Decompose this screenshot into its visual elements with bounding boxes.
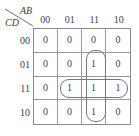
cell-r2-c0: 0 [34,77,58,101]
row-header-3: 10 [8,101,32,125]
axis-corner-header: AB CD [4,4,34,30]
cell-r1-c2: 1 [82,53,106,77]
column-header-0: 00 [33,12,58,27]
row-header-0: 00 [8,28,32,52]
cell-r3-c0: 0 [34,100,58,124]
cell-r1-c1: 0 [58,53,82,77]
cell-r3-c1: 0 [58,100,82,124]
column-header-1: 01 [58,12,83,27]
cell-r0-c3: 0 [106,29,130,53]
cell-r2-c1: 1 [58,77,82,101]
cell-r2-c3: 1 [106,77,130,101]
row-header-1: 01 [8,52,32,76]
cell-r0-c1: 0 [58,29,82,53]
row-axis-label: CD [5,17,19,28]
row-header-2: 11 [8,77,32,101]
column-header-3: 10 [107,12,132,27]
column-axis-label: AB [20,5,32,16]
cell-r3-c2: 1 [82,100,106,124]
cell-r0-c2: 0 [82,29,106,53]
column-headers: 00 01 11 10 [33,12,131,27]
cell-r3-c3: 0 [106,100,130,124]
column-header-2: 11 [82,12,107,27]
cell-r2-c2: 1 [82,77,106,101]
cell-r1-c0: 0 [34,53,58,77]
row-headers: 00 01 11 10 [8,28,32,125]
cell-r1-c3: 0 [106,53,130,77]
cell-r0-c0: 0 [34,29,58,53]
karnaugh-map: AB CD 00 01 11 10 00 01 11 10 0 0 0 0 0 … [0,0,139,136]
kmap-grid: 0 0 0 0 0 0 1 0 0 1 1 1 0 0 1 0 [33,28,131,125]
